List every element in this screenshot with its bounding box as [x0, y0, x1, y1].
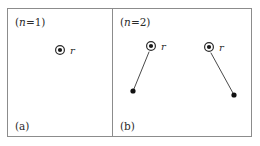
panel-b-sublabel: (b) — [120, 120, 135, 132]
marker-b-1 — [147, 42, 156, 51]
connector-b-1 — [134, 52, 150, 90]
endpoint-b-1-dot-icon — [130, 88, 135, 93]
panel-b-n-label: (n=2) — [120, 16, 150, 28]
marker-core-dot-icon — [149, 44, 153, 48]
panel-a: (n=1) r (a) — [15, 16, 76, 132]
marker-b-2 — [205, 43, 214, 52]
panel-b: (n=2) r r (b) — [120, 16, 237, 132]
marker-core-dot-icon — [58, 48, 62, 52]
marker-a-1-r-label: r — [70, 45, 76, 56]
panel-b-n-rest: =2) — [131, 16, 151, 28]
marker-a-1 — [56, 46, 65, 55]
connector-b-2 — [211, 53, 234, 94]
endpoint-b-2-dot-icon — [231, 92, 236, 97]
figure-container: (n=1) r (a) (n=2) r — [0, 0, 260, 146]
panel-a-n-rest: =1) — [26, 16, 46, 28]
marker-core-dot-icon — [207, 45, 211, 49]
marker-b-1-r-label: r — [161, 41, 167, 52]
panel-a-n-label: (n=1) — [15, 16, 45, 28]
figure-canvas: (n=1) r (a) (n=2) r — [0, 0, 260, 146]
panel-a-sublabel: (a) — [15, 120, 29, 132]
marker-b-2-r-label: r — [219, 42, 225, 53]
